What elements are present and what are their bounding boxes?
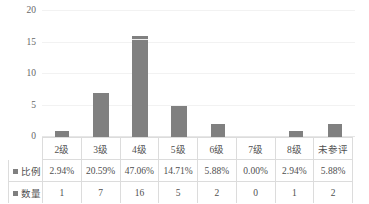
y-axis: 20 15 10 5 0: [8, 10, 36, 137]
count-value-3ji: 7: [81, 182, 120, 204]
ratio-value-weicanping: 5.88%: [314, 160, 353, 182]
table-row-count: 数量 1 7 16 5 2 0 1 2: [9, 182, 353, 204]
y-axis-tick-15: 15: [8, 38, 36, 48]
category-header-5ji: 5级: [159, 138, 198, 160]
category-header-weicanping: 未参评: [314, 138, 353, 160]
bar-slot-3ji: [81, 10, 120, 137]
square-marker-icon: [13, 191, 18, 196]
bar-slot-4ji: [120, 10, 159, 137]
ratio-value-6ji: 5.88%: [198, 160, 237, 182]
legend-row-ratio: 比例: [9, 160, 43, 182]
bars-layer: [42, 10, 355, 137]
count-value-7ji: 0: [236, 182, 275, 204]
legend-label-ratio: 比例: [21, 167, 41, 177]
legend-label-count: 数量: [21, 189, 41, 199]
count-value-5ji: 5: [159, 182, 198, 204]
table-corner-cell: [9, 138, 43, 160]
ratio-value-2ji: 2.94%: [43, 160, 82, 182]
count-value-6ji: 2: [198, 182, 237, 204]
bar-slot-7ji: [238, 10, 277, 137]
bar-slot-8ji: [277, 10, 316, 137]
square-marker-icon: [13, 169, 18, 174]
category-header-2ji: 2级: [43, 138, 82, 160]
y-axis-tick-5: 5: [8, 101, 36, 111]
bar-slot-6ji: [199, 10, 238, 137]
category-header-7ji: 7级: [236, 138, 275, 160]
bar-4ji: [132, 36, 148, 137]
chart-container: 20 15 10 5 0: [0, 0, 369, 203]
bar-weicanping: [328, 124, 342, 137]
bar-slot-5ji: [159, 10, 198, 137]
category-header-6ji: 6级: [198, 138, 237, 160]
plot-area: [42, 10, 355, 137]
y-axis-tick-20: 20: [8, 6, 36, 16]
table-row-ratio: 比例 2.94% 20.59% 47.06% 14.71% 5.88% 0.00…: [9, 160, 353, 182]
ratio-value-5ji: 14.71%: [159, 160, 198, 182]
ratio-value-4ji: 47.06%: [120, 160, 159, 182]
ratio-value-7ji: 0.00%: [236, 160, 275, 182]
ratio-value-8ji: 2.94%: [275, 160, 314, 182]
category-header-3ji: 3级: [81, 138, 120, 160]
legend-row-count: 数量: [9, 182, 43, 204]
y-axis-tick-10: 10: [8, 69, 36, 79]
bar-slot-weicanping: [316, 10, 355, 137]
count-value-4ji: 16: [120, 182, 159, 204]
table-row-categories: 2级 3级 4级 5级 6级 7级 8级 未参评: [9, 138, 353, 160]
count-value-weicanping: 2: [314, 182, 353, 204]
bar-3ji: [93, 93, 109, 137]
bar-6ji: [211, 124, 225, 137]
count-value-2ji: 1: [43, 182, 82, 204]
data-table: 2级 3级 4级 5级 6级 7级 8级 未参评 比例 2.94% 20.59%…: [8, 137, 353, 203]
bar-5ji: [171, 106, 187, 138]
bar-slot-2ji: [42, 10, 81, 137]
count-value-8ji: 1: [275, 182, 314, 204]
category-header-8ji: 8级: [275, 138, 314, 160]
bar-notch-icon: [132, 39, 148, 40]
category-header-4ji: 4级: [120, 138, 159, 160]
ratio-value-3ji: 20.59%: [81, 160, 120, 182]
